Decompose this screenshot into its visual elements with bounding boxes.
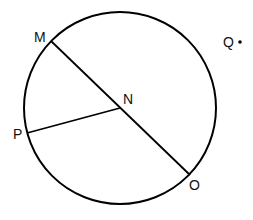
label-q: Q — [223, 34, 234, 50]
segment-pn — [27, 108, 120, 133]
geometry-diagram: M N P O Q — [0, 0, 253, 220]
label-p: P — [13, 126, 22, 142]
segment-mo — [51, 41, 190, 175]
point-q-dot — [238, 40, 242, 44]
label-n: N — [123, 91, 133, 107]
label-o: O — [189, 177, 200, 193]
diagram-canvas: M N P O Q — [0, 0, 253, 220]
label-m: M — [34, 29, 46, 45]
